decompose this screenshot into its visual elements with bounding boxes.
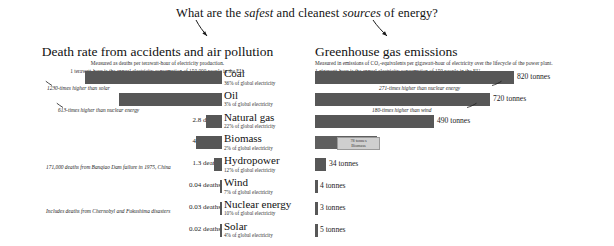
left-category-natural-gas: Natural gas xyxy=(224,112,308,124)
left-bar-wind[interactable] xyxy=(220,180,222,193)
right-value-natural-gas: 490 tonnes xyxy=(437,116,470,125)
left-bar-hydropower[interactable] xyxy=(214,158,222,171)
left-category-coal: Coal xyxy=(224,68,308,80)
annotation-nuclear-disasters: Includes deaths from Chernobyl and Fukus… xyxy=(46,208,170,214)
left-panel: Death rate from accidents and air pollut… xyxy=(0,0,307,246)
table-row[interactable]: 820 tonnes xyxy=(307,70,614,92)
left-panel-heading: Death rate from accidents and air pollut… xyxy=(8,44,307,60)
left-value-label: 0.02 deaths xyxy=(189,225,221,233)
right-bar-oil[interactable] xyxy=(315,93,490,106)
left-bar-natural-gas[interactable] xyxy=(206,115,222,128)
biomass-tooltip: 78 tonnes Biomass xyxy=(337,137,380,150)
left-category-wind: Wind xyxy=(224,177,308,189)
right-value-wind: 4 tonnes xyxy=(320,181,346,190)
left-panel-subtitle-1: Measured as deaths per terawatt-hour of … xyxy=(8,60,307,68)
table-row[interactable]: 3 tonnes xyxy=(307,201,614,223)
infographic-root: What are the safest and cleanest sources… xyxy=(0,0,614,246)
table-row[interactable]: 5 tonnes xyxy=(307,223,614,245)
left-category-biomass: Biomass xyxy=(224,133,308,145)
right-value-solar: 5 tonnes xyxy=(320,225,346,234)
left-bar-nuclear-energy[interactable] xyxy=(220,202,222,215)
right-bar-wind[interactable] xyxy=(315,180,318,193)
left-bar-oil[interactable] xyxy=(119,93,222,106)
right-panel: Greenhouse gas emissions Measured in emi… xyxy=(307,0,614,246)
left-category-nuclear-energy: Nuclear energy xyxy=(224,199,308,211)
left-value-label: 0.03 deaths xyxy=(189,203,221,211)
annotation-banqiao-dam: 171,000 deaths from Banqiao Dam failure … xyxy=(46,164,171,170)
right-value-hydropower: 34 tonnes xyxy=(329,159,358,168)
table-row[interactable]: 34 tonnes xyxy=(307,157,614,179)
annotation-coal-vs-nuclear: 271-times higher than nuclear energy xyxy=(379,85,460,91)
table-row[interactable]: 78 tonnes Biomass xyxy=(307,135,614,157)
left-value-label: 0.04 deaths xyxy=(189,181,221,189)
table-row[interactable]: 4 tonnes xyxy=(307,179,614,201)
right-bar-coal[interactable] xyxy=(315,71,514,84)
annotation-oil-vs-nuclear: 613-times higher than nuclear energy xyxy=(58,107,139,113)
right-value-coal: 820 tonnes xyxy=(517,72,550,81)
right-bar-nuclear-energy[interactable] xyxy=(315,202,318,215)
right-bar-hydropower[interactable] xyxy=(315,158,326,171)
left-share-biomass: 2% of global electricity xyxy=(224,145,308,151)
annotation-coal-vs-solar: 1230-times higher than solar xyxy=(47,85,110,91)
left-share-coal: 36% of global electricity xyxy=(224,80,308,86)
table-row[interactable]: 490 tonnes xyxy=(307,114,614,136)
left-share-natural-gas: 22% of global electricity xyxy=(224,123,308,129)
left-category-hydropower: Hydropower xyxy=(224,155,308,167)
right-panel-subtitle-1: Measured in emissions of CO₂-equivalents… xyxy=(315,60,552,68)
left-bar-solar[interactable] xyxy=(220,224,222,237)
right-value-oil: 720 tonnes xyxy=(493,94,526,103)
table-row[interactable]: 0.02 deaths Solar 4% of global electrici… xyxy=(0,223,307,245)
table-row[interactable]: 720 tonnes xyxy=(307,92,614,114)
right-bar-solar[interactable] xyxy=(315,224,318,237)
left-share-solar: 4% of global electricity xyxy=(224,232,308,238)
biomass-tooltip-line2: Biomass xyxy=(351,144,365,149)
right-chart-rows: 820 tonnes 720 tonnes 490 tonnes xyxy=(307,70,614,244)
left-share-nuclear-energy: 10% of global electricity xyxy=(224,210,308,216)
left-category-oil: Oil xyxy=(224,90,308,102)
left-bar-biomass[interactable] xyxy=(196,136,222,149)
annotation-oil-vs-wind: 180-times higher than wind xyxy=(372,107,431,113)
left-chart-rows: 24.6 deaths Coal 36% of global electrici… xyxy=(0,70,307,244)
left-bar-coal[interactable] xyxy=(85,71,222,84)
left-share-wind: 7% of global electricity xyxy=(224,189,308,195)
left-share-hydropower: 12% of global electricity xyxy=(224,167,308,173)
right-bar-natural-gas[interactable] xyxy=(315,115,434,128)
left-category-solar: Solar xyxy=(224,221,308,233)
right-value-nuclear-energy: 3 tonnes xyxy=(320,203,346,212)
left-share-oil: 3% of global electricity xyxy=(224,101,308,107)
right-panel-heading: Greenhouse gas emissions xyxy=(315,44,552,60)
